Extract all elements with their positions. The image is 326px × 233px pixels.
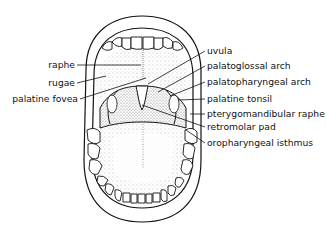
label-raphe: raphe xyxy=(48,59,75,70)
label-rugae: rugae xyxy=(48,77,75,88)
label-palatine-fovea: palatine fovea xyxy=(12,93,78,104)
label-retromolar-pad: retromolar pad xyxy=(207,121,276,132)
label-palatopharyngeal-arch: palatopharyngeal arch xyxy=(207,76,311,87)
left-palatine-tonsil xyxy=(107,95,117,113)
label-palatine-tonsil: palatine tonsil xyxy=(207,93,272,104)
oral-cavity-diagram: raphe rugae palatine fovea uvula palatog… xyxy=(0,0,326,233)
label-palatoglossal-arch: palatoglossal arch xyxy=(207,60,291,71)
right-palatine-tonsil xyxy=(169,95,179,113)
label-uvula: uvula xyxy=(207,45,232,56)
label-pterygomandibular-raphe: pterygomandibular raphe xyxy=(207,108,325,119)
label-oropharyngeal-isthmus: oropharyngeal isthmus xyxy=(207,137,313,148)
